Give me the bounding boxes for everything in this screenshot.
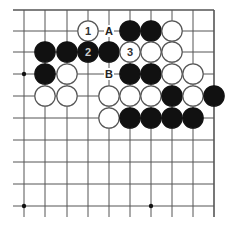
black-stone [120,108,140,128]
black-stone [162,86,182,106]
stone-icon [141,21,161,41]
stone-icon [120,108,140,128]
move-number: 2 [85,46,91,58]
stone-icon [57,64,77,84]
black-stone [120,21,140,41]
stone-icon [141,86,161,106]
white-stone [35,86,55,106]
stone-icon [99,42,119,62]
move-number: 3 [127,46,133,58]
stone-icon [35,64,55,84]
stone-icon [120,86,140,106]
black-stone [35,42,55,62]
stones-layer: 123 [35,21,224,128]
stone-icon [35,86,55,106]
star-point-icon [22,72,26,76]
black-stone [35,64,55,84]
white-stone [162,21,182,41]
stone-icon [204,86,224,106]
star-point-icon [149,204,153,208]
stone-icon [57,42,77,62]
stone-icon [162,21,182,41]
white-stone [162,42,182,62]
black-stone [99,42,119,62]
stone-icon [57,86,77,106]
stone-icon [141,64,161,84]
stone-icon [35,42,55,62]
stone-icon [162,42,182,62]
black-stone [141,64,161,84]
black-stone [120,64,140,84]
stone-icon [183,64,203,84]
white-stone: 3 [120,42,140,62]
stone-icon [183,108,203,128]
white-stone [99,86,119,106]
white-stone [162,64,182,84]
white-stone [120,86,140,106]
go-board: AB 123 [0,0,229,226]
stone-icon [141,42,161,62]
black-stone [57,42,77,62]
stone-icon [162,64,182,84]
stone-icon [120,21,140,41]
point-label-a: A [105,25,113,37]
white-stone [141,86,161,106]
white-stone [183,64,203,84]
black-stone [162,108,182,128]
black-stone [204,86,224,106]
stone-icon [162,108,182,128]
move-number: 1 [85,25,91,37]
stone-icon [141,108,161,128]
stone-icon [120,64,140,84]
star-point-icon [22,204,26,208]
point-label-b: B [105,68,113,80]
black-stone [141,21,161,41]
stone-icon [99,108,119,128]
stone-icon [183,86,203,106]
black-stone: 2 [78,42,98,62]
white-stone [141,42,161,62]
white-stone [57,64,77,84]
black-stone [141,108,161,128]
white-stone [57,86,77,106]
white-stone: 1 [78,21,98,41]
stone-icon [99,86,119,106]
stone-icon [162,86,182,106]
white-stone [99,108,119,128]
black-stone [183,108,203,128]
white-stone [183,86,203,106]
